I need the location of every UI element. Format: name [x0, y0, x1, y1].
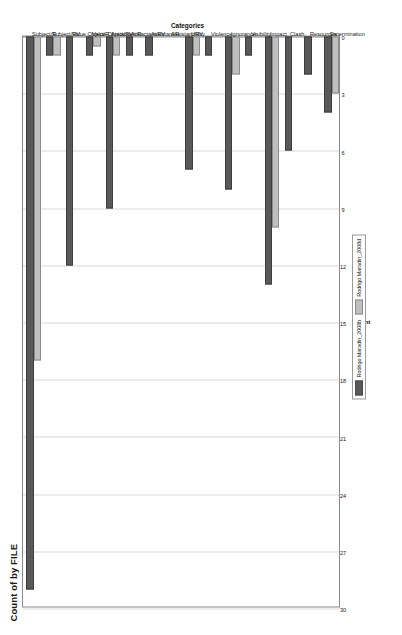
chart-title: Count of by FILE: [8, 543, 19, 621]
value-tick-24: 24: [340, 493, 346, 499]
bar: [324, 36, 331, 112]
category-axis-title: Categories: [171, 21, 204, 28]
bar: [265, 36, 272, 284]
value-tick-18: 18: [340, 378, 346, 384]
legend-item[interactable]: Rodrigo Maradin_2008d: [355, 238, 363, 314]
gridline-30: [23, 608, 339, 609]
value-tick-12: 12: [340, 264, 346, 270]
value-tick-27: 27: [340, 550, 346, 556]
bar: [53, 36, 60, 55]
bar: [185, 36, 192, 169]
legend-item[interactable]: Rodrigo Maradin_2008b: [355, 319, 363, 395]
value-tick-0: 0: [341, 35, 344, 41]
legend-swatch: [355, 380, 363, 395]
chart-page: Count of by FILE Subject/RSubject/RVValu…: [0, 0, 402, 635]
bar: [86, 36, 93, 55]
legend-label: Rodrigo Maradin_2008d: [356, 238, 362, 296]
bar: [245, 36, 252, 55]
bar: [66, 36, 73, 265]
value-tick-9: 9: [341, 207, 344, 213]
bar-group: [23, 36, 43, 606]
bar-group: [43, 36, 63, 606]
bar: [106, 36, 113, 208]
bar: [26, 36, 33, 589]
bar: [272, 36, 279, 227]
bar: [34, 36, 41, 360]
bar: [232, 36, 239, 74]
bar: [205, 36, 212, 55]
bar: [193, 36, 200, 55]
value-tick-3: 3: [341, 92, 344, 98]
value-tick-21: 21: [340, 435, 346, 441]
value-tick-30: 30: [340, 607, 346, 613]
bar: [93, 36, 100, 46]
bar: [332, 36, 339, 93]
value-tick-6: 6: [341, 149, 344, 155]
legend: Rodrigo Maradin_2008bRodrigo Maradin_200…: [352, 234, 366, 399]
legend-label: Rodrigo Maradin_2008b: [356, 319, 362, 377]
rotated-chart-canvas: Count of by FILE Subject/RSubject/RVValu…: [0, 0, 402, 635]
bar: [145, 36, 152, 55]
legend-swatch: [355, 299, 363, 314]
bar: [126, 36, 133, 55]
bar: [225, 36, 232, 189]
bar: [113, 36, 120, 55]
bar: [304, 36, 311, 74]
bar: [285, 36, 292, 150]
bar: [46, 36, 53, 55]
